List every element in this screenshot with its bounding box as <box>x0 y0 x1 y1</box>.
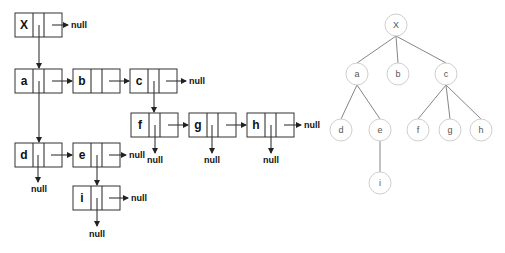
tree-node-c: c <box>435 63 457 85</box>
null-label: null <box>204 155 220 165</box>
tree-edge-c-g <box>446 85 450 119</box>
tree-edge-a-e <box>357 85 380 119</box>
tree-node-label: h <box>478 125 483 135</box>
tree-node-b: b <box>387 63 409 85</box>
null-label: null <box>71 20 87 30</box>
tree-node-e: e <box>369 119 391 141</box>
null-label: null <box>189 76 205 86</box>
linked-node-c: c <box>130 69 177 93</box>
node-label: d <box>20 148 27 162</box>
node-label: g <box>194 118 201 132</box>
tree-nodes: Xabcdefghi <box>330 14 492 194</box>
tree-node-f: f <box>407 119 429 141</box>
tree-node-label: a <box>354 69 359 79</box>
null-label: null <box>131 193 147 203</box>
node-label: h <box>252 118 259 132</box>
node-label: b <box>78 74 85 88</box>
linked-node-a: a <box>15 69 62 93</box>
tree-node-label: c <box>444 69 449 79</box>
node-label: e <box>79 148 86 162</box>
linked-list-representation: null null null null null null null null … <box>15 13 320 239</box>
tree-edge-c-h <box>446 85 481 119</box>
linked-node-d: d <box>15 143 62 167</box>
linked-node-g: g <box>189 113 236 137</box>
null-label: null <box>129 150 145 160</box>
linked-node-i: i <box>73 186 120 210</box>
tree-node-label: g <box>447 125 452 135</box>
tree-node-X: X <box>385 14 407 36</box>
linked-node-b: b <box>73 69 120 93</box>
tree-edge-c-f <box>418 85 446 119</box>
tree-node-label: X <box>393 20 399 30</box>
diagram-canvas: null null null null null null null null … <box>0 0 505 253</box>
tree-node-label: b <box>395 69 400 79</box>
tree-edge-X-b <box>396 36 398 63</box>
null-label: null <box>31 184 47 194</box>
tree-node-a: a <box>346 63 368 85</box>
null-label: null <box>304 120 320 130</box>
tree-edge-X-a <box>357 36 396 63</box>
node-label: c <box>136 74 143 88</box>
tree-representation: Xabcdefghi <box>330 14 492 194</box>
null-label: null <box>89 229 105 239</box>
node-label: i <box>80 191 83 205</box>
linked-node-h: h <box>247 113 294 137</box>
tree-node-h: h <box>470 119 492 141</box>
tree-node-label: d <box>338 125 343 135</box>
null-label: null <box>147 155 163 165</box>
tree-edges <box>341 36 481 172</box>
tree-node-i: i <box>369 172 391 194</box>
linked-node-X: X <box>15 13 62 37</box>
tree-node-label: i <box>379 178 381 188</box>
node-label: a <box>21 74 28 88</box>
tree-node-label: e <box>377 125 382 135</box>
linked-node-e: e <box>73 143 120 167</box>
linked-node-f: f <box>131 113 178 137</box>
tree-node-d: d <box>330 119 352 141</box>
tree-edge-X-c <box>396 36 446 63</box>
tree-node-g: g <box>439 119 461 141</box>
tree-edge-a-d <box>341 85 357 119</box>
null-label: null <box>263 155 279 165</box>
node-label: X <box>20 18 28 32</box>
